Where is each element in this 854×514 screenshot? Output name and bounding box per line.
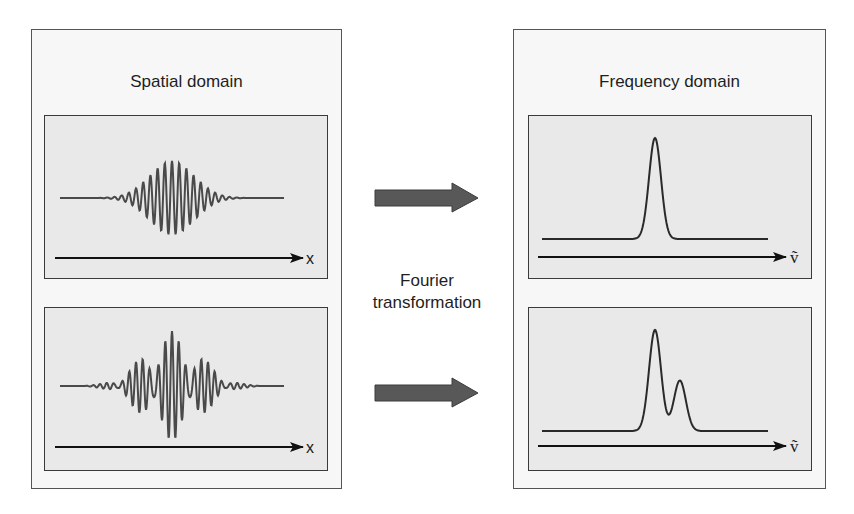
frequency-domain-title: Frequency domain	[514, 72, 825, 92]
label-line-transformation: transformation	[352, 292, 502, 314]
spatial-plot-bottom	[44, 307, 328, 471]
right-arrow-icon[interactable]	[375, 378, 478, 407]
spatial-plot-top	[44, 115, 328, 279]
label-line-fourier: Fourier	[352, 270, 502, 292]
fourier-transformation-label: Fourier transformation	[352, 270, 502, 314]
frequency-plot-top	[528, 115, 812, 279]
spatial-domain-title: Spatial domain	[32, 72, 341, 92]
frequency-plot-bottom	[528, 307, 812, 471]
right-arrow-icon[interactable]	[375, 183, 478, 212]
